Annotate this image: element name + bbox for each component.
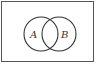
venn-diagram: A B <box>0 0 96 65</box>
set-a-label: A <box>29 29 37 40</box>
set-b-label: B <box>60 29 68 40</box>
universal-set-rectangle <box>2 2 94 62</box>
